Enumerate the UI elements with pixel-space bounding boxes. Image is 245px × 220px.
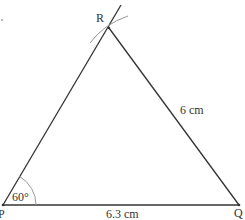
- side-qr-label: 6 cm: [180, 104, 204, 116]
- vertex-p-dot: [2, 204, 5, 207]
- angle-p-label: 60°: [12, 191, 29, 203]
- side-pr-extended: [3, 5, 121, 205]
- stray-dot: [1, 19, 3, 21]
- vertex-p-label: P: [0, 208, 5, 220]
- vertex-q-label: Q: [234, 207, 243, 219]
- triangle-construction-diagram: R P Q 6 cm 6.3 cm 60°: [0, 0, 245, 220]
- vertex-r-dot: [108, 27, 110, 29]
- diagram-svg: [0, 0, 245, 220]
- side-qr: [109, 28, 239, 205]
- vertex-r-label: R: [96, 12, 104, 24]
- side-pq-label: 6.3 cm: [106, 208, 139, 220]
